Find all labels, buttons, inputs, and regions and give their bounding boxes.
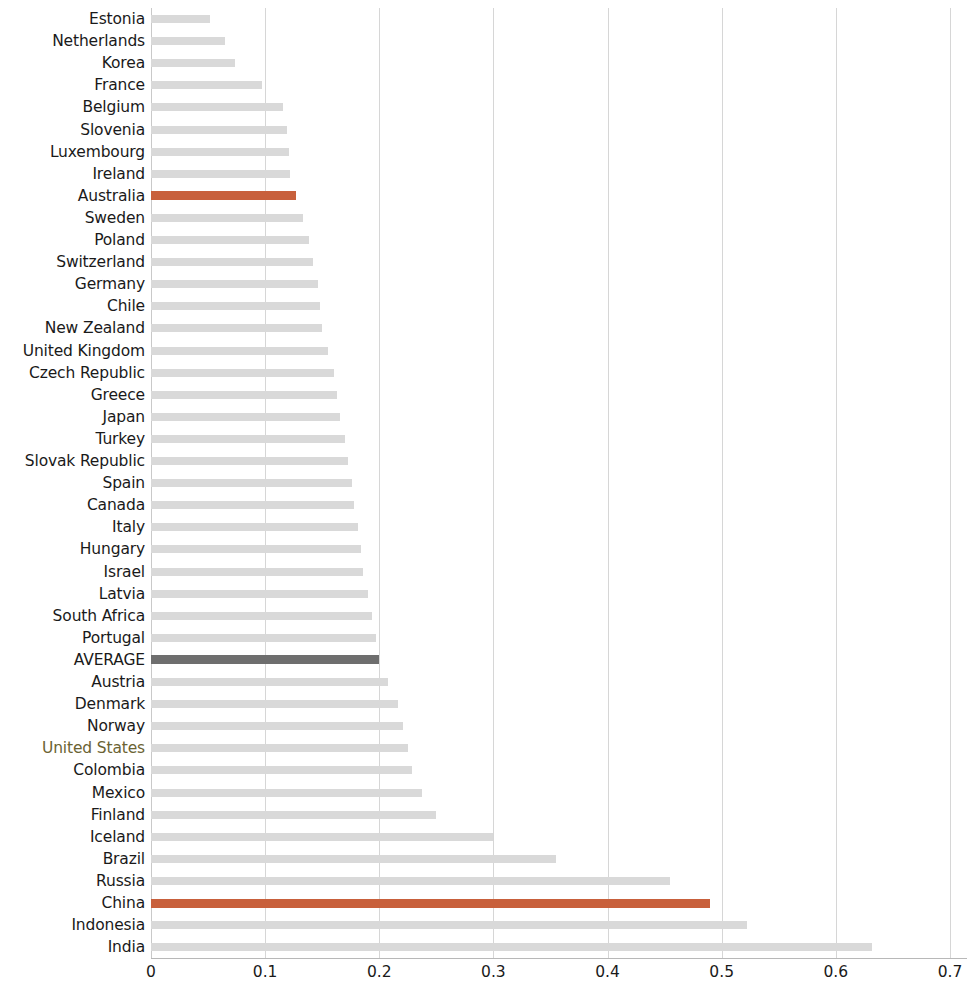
bar-germany xyxy=(151,280,318,288)
y-axis-label-netherlands: Netherlands xyxy=(0,30,145,52)
bar-united-kingdom xyxy=(151,347,328,355)
bar-row xyxy=(151,229,967,251)
bar-norway xyxy=(151,722,403,730)
y-axis-label-india: India xyxy=(0,936,145,958)
x-tick-label: 0.2 xyxy=(367,960,392,984)
y-axis-label-japan: Japan xyxy=(0,406,145,428)
y-axis-label-israel: Israel xyxy=(0,561,145,583)
bar-turkey xyxy=(151,435,345,443)
bar-new-zealand xyxy=(151,324,322,332)
bar-row xyxy=(151,605,967,627)
bar-sweden xyxy=(151,214,303,222)
bar-row xyxy=(151,406,967,428)
bar-france xyxy=(151,81,262,89)
bar-portugal xyxy=(151,634,376,642)
y-axis-label-united-states: United States xyxy=(0,737,145,759)
bar-latvia xyxy=(151,590,368,598)
bar-row xyxy=(151,538,967,560)
y-axis-label-belgium: Belgium xyxy=(0,96,145,118)
bar-czech-republic xyxy=(151,369,334,377)
y-axis-label-hungary: Hungary xyxy=(0,538,145,560)
y-axis-label-mexico: Mexico xyxy=(0,782,145,804)
bar-canada xyxy=(151,501,354,509)
bar-finland xyxy=(151,811,436,819)
bar-row xyxy=(151,74,967,96)
bar-row xyxy=(151,649,967,671)
y-axis-label-italy: Italy xyxy=(0,516,145,538)
bar-chile xyxy=(151,302,320,310)
y-axis-label-estonia: Estonia xyxy=(0,8,145,30)
bar-china xyxy=(151,899,710,908)
bar-russia xyxy=(151,877,670,885)
bar-row xyxy=(151,185,967,207)
x-axis-tick-labels: 00.10.20.30.40.50.60.7 xyxy=(0,960,967,987)
bar-belgium xyxy=(151,103,283,111)
bar-japan xyxy=(151,413,340,421)
y-axis-label-slovenia: Slovenia xyxy=(0,119,145,141)
y-axis-label-iceland: Iceland xyxy=(0,826,145,848)
bar-row xyxy=(151,295,967,317)
x-tick-label: 0.4 xyxy=(595,960,620,984)
plot-area xyxy=(151,8,967,958)
bar-italy xyxy=(151,523,358,531)
bar-row xyxy=(151,715,967,737)
y-axis-label-austria: Austria xyxy=(0,671,145,693)
bar-spain xyxy=(151,479,352,487)
bar-denmark xyxy=(151,700,398,708)
bar-south-africa xyxy=(151,612,372,620)
bar-mexico xyxy=(151,789,422,797)
bar-row xyxy=(151,472,967,494)
bar-brazil xyxy=(151,855,556,863)
bar-row xyxy=(151,627,967,649)
y-axis-label-germany: Germany xyxy=(0,273,145,295)
bar-row xyxy=(151,737,967,759)
x-tick-label: 0.5 xyxy=(709,960,734,984)
y-axis-label-turkey: Turkey xyxy=(0,428,145,450)
bar-estonia xyxy=(151,15,210,23)
bar-row xyxy=(151,804,967,826)
y-axis-label-portugal: Portugal xyxy=(0,627,145,649)
x-tick-label: 0.1 xyxy=(253,960,278,984)
y-axis-label-korea: Korea xyxy=(0,52,145,74)
y-axis-label-russia: Russia xyxy=(0,870,145,892)
bar-row xyxy=(151,8,967,30)
bar-row xyxy=(151,848,967,870)
y-axis-label-luxembourg: Luxembourg xyxy=(0,141,145,163)
bar-row xyxy=(151,782,967,804)
bar-row xyxy=(151,207,967,229)
y-axis-label-sweden: Sweden xyxy=(0,207,145,229)
y-axis-labels: EstoniaNetherlandsKoreaFranceBelgiumSlov… xyxy=(0,8,145,958)
bar-row xyxy=(151,163,967,185)
bar-austria xyxy=(151,678,388,686)
bar-row xyxy=(151,693,967,715)
bar-greece xyxy=(151,391,337,399)
bar-row xyxy=(151,362,967,384)
bar-row xyxy=(151,251,967,273)
y-axis-label-new-zealand: New Zealand xyxy=(0,317,145,339)
bar-row xyxy=(151,141,967,163)
bar-row xyxy=(151,759,967,781)
bar-row xyxy=(151,317,967,339)
bar-korea xyxy=(151,59,235,67)
y-axis-label-latvia: Latvia xyxy=(0,583,145,605)
y-axis-label-brazil: Brazil xyxy=(0,848,145,870)
bar-hungary xyxy=(151,545,361,553)
y-axis-label-slovak-republic: Slovak Republic xyxy=(0,450,145,472)
bar-chart: EstoniaNetherlandsKoreaFranceBelgiumSlov… xyxy=(0,0,967,987)
bar-switzerland xyxy=(151,258,313,266)
y-axis-label-ireland: Ireland xyxy=(0,163,145,185)
y-axis-label-united-kingdom: United Kingdom xyxy=(0,340,145,362)
bar-united-states xyxy=(151,744,408,752)
bar-row xyxy=(151,450,967,472)
bar-row xyxy=(151,96,967,118)
bar-slovenia xyxy=(151,126,287,134)
bar-row xyxy=(151,561,967,583)
bar-average xyxy=(151,655,379,664)
y-axis-label-switzerland: Switzerland xyxy=(0,251,145,273)
bar-row xyxy=(151,892,967,914)
y-axis-label-norway: Norway xyxy=(0,715,145,737)
x-axis-line xyxy=(151,958,967,959)
bar-row xyxy=(151,583,967,605)
y-axis-label-average: AVERAGE xyxy=(0,649,145,671)
bar-slovak-republic xyxy=(151,457,348,465)
